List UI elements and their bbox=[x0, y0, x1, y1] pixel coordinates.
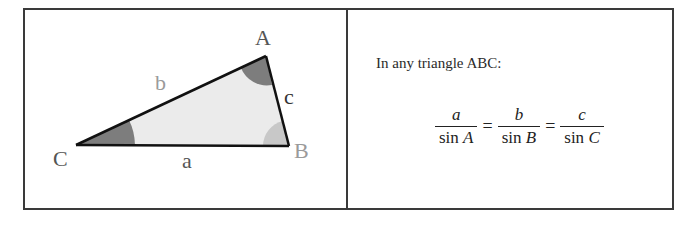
vertex-label-b: B bbox=[294, 138, 309, 163]
side-a bbox=[76, 145, 289, 146]
fraction-c: c sin C bbox=[560, 106, 603, 147]
sin-fn: sin bbox=[439, 128, 459, 147]
sin-fn: sin bbox=[502, 128, 522, 147]
vertex-label-c: C bbox=[53, 146, 68, 171]
equals-sign: = bbox=[482, 116, 492, 137]
denominator: sin B bbox=[498, 126, 540, 147]
angle-var: C bbox=[588, 128, 599, 147]
equals-sign: = bbox=[545, 116, 555, 137]
denominator: sin C bbox=[560, 126, 603, 147]
angle-var: A bbox=[463, 128, 473, 147]
fraction-b: b sin B bbox=[498, 106, 540, 147]
intro-text: In any triangle ABC: bbox=[376, 55, 501, 72]
side-label-a: a bbox=[182, 148, 192, 173]
side-label-b: b bbox=[155, 70, 166, 95]
numerator: a bbox=[450, 106, 463, 126]
sin-fn: sin bbox=[564, 128, 584, 147]
vertex-label-a: A bbox=[255, 25, 271, 50]
denominator: sin A bbox=[435, 126, 477, 147]
fraction-a: a sin A bbox=[435, 106, 477, 147]
numerator: b bbox=[513, 106, 526, 126]
law-of-sines-formula: a sin A = b sin B = c sin C bbox=[435, 106, 604, 147]
side-label-c: c bbox=[284, 84, 294, 109]
angle-var: B bbox=[526, 128, 536, 147]
numerator: c bbox=[576, 106, 588, 126]
